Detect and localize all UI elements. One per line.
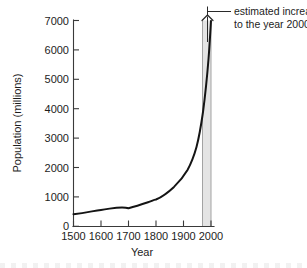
x-tick-1900: 1900 [171,230,195,242]
x-axis-title: Year [131,246,154,258]
annotation-text-block: estimated increase to the year 2000 [234,5,307,30]
y-axis-tick-labels: 7000 6000 5000 4000 3000 2000 1000 0 [45,15,69,233]
x-tick-1700: 1700 [116,230,140,242]
x-axis-tick-labels: 1500 1600 1700 1800 1900 2000 [61,230,223,242]
cutoff-caption-sliver [0,263,307,268]
chart-canvas: 7000 6000 5000 4000 3000 2000 1000 0 150… [0,0,307,268]
annotation-line-1: estimated increase [234,5,307,17]
x-tick-1500: 1500 [61,230,85,242]
y-tick-4000: 4000 [45,103,69,115]
population-growth-chart: 7000 6000 5000 4000 3000 2000 1000 0 150… [0,0,307,268]
annotation-line-2: to the year 2000 [234,18,307,30]
y-tick-6000: 6000 [45,44,69,56]
y-tick-1000: 1000 [45,191,69,203]
y-axis-title: Population (millions) [11,73,23,172]
x-tick-2000: 2000 [199,230,223,242]
x-tick-1800: 1800 [144,230,168,242]
x-axis-ticks [74,221,212,227]
x-tick-1600: 1600 [89,230,113,242]
y-tick-7000: 7000 [45,15,69,27]
y-tick-3000: 3000 [45,132,69,144]
population-curve [74,21,212,214]
axis-lines [73,20,214,227]
y-axis-ticks [74,21,80,227]
y-tick-2000: 2000 [45,162,69,174]
y-tick-5000: 5000 [45,73,69,85]
